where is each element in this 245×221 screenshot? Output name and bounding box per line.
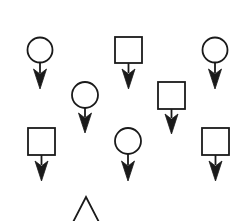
circle-symbol-7 xyxy=(115,128,141,181)
circle-symbol-3 xyxy=(203,38,228,90)
square-symbol-2 xyxy=(115,37,142,89)
square-icon xyxy=(28,128,55,155)
square-icon xyxy=(115,37,142,63)
circle-symbol-4 xyxy=(72,82,98,133)
square-symbol-8 xyxy=(202,128,229,181)
diagram-canvas xyxy=(0,0,245,221)
circle-icon xyxy=(115,128,141,154)
circle-icon xyxy=(203,38,228,63)
circle-icon xyxy=(72,82,98,108)
circle-icon xyxy=(28,38,53,63)
triangle-icon xyxy=(70,197,102,221)
triangle-symbol-9 xyxy=(70,197,102,221)
square-icon xyxy=(158,82,185,109)
square-icon xyxy=(202,128,229,155)
circle-symbol-1 xyxy=(28,38,53,90)
square-symbol-6 xyxy=(28,128,55,181)
symbol-pattern-diagram xyxy=(0,0,245,221)
square-symbol-5 xyxy=(158,82,185,134)
